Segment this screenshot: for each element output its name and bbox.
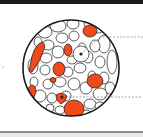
cell-cross-section-diagram (0, 0, 143, 137)
stray-mark (2, 66, 4, 68)
bottom-shade (0, 133, 143, 137)
